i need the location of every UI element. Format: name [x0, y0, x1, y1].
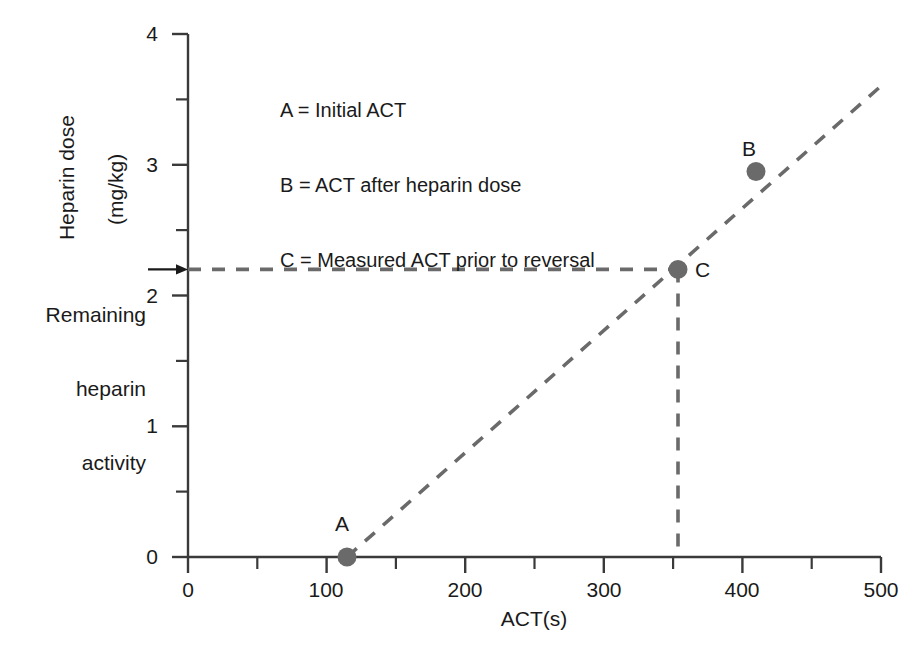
legend-item-b: B = ACT after heparin dose	[280, 174, 595, 198]
y-tick-label-4: 4	[118, 22, 158, 47]
y-tick-label-0: 0	[118, 545, 158, 570]
x-tick-label-300: 300	[569, 578, 639, 603]
x-tick-label-400: 400	[707, 578, 777, 603]
x-tick-label-500: 500	[846, 578, 916, 603]
chart-figure: 4 3 2 1 0 0 100 200 300 400 500 ACT(s) H…	[0, 0, 920, 649]
remaining-heparin-activity-annotation: Remaining heparin activity	[18, 253, 146, 525]
data-point-label-a: A	[335, 512, 349, 537]
remaining-annotation-line1: Remaining	[18, 303, 146, 328]
legend: A = Initial ACT B = ACT after heparin do…	[280, 52, 595, 324]
x-tick-label-200: 200	[430, 578, 500, 603]
data-point-c	[669, 260, 688, 279]
remaining-annotation-line2: heparin	[18, 377, 146, 402]
remaining-annotation-line3: activity	[18, 451, 146, 476]
x-tick-label-100: 100	[291, 578, 361, 603]
data-point-label-b: B	[742, 137, 756, 162]
data-point-a	[338, 548, 357, 567]
legend-item-c: C = Measured ACT prior to reversal	[280, 249, 595, 273]
data-point-b	[747, 162, 766, 181]
x-axis-title: ACT(s)	[434, 607, 634, 632]
legend-item-a: A = Initial ACT	[280, 99, 595, 123]
y-axis-title-line1: Heparin dose	[54, 115, 77, 240]
x-tick-label-0: 0	[153, 578, 223, 603]
data-point-label-c: C	[695, 258, 710, 283]
